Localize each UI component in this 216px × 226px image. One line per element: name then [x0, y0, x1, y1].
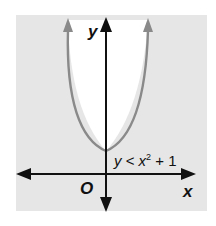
inequality-op: < — [122, 152, 139, 169]
y-axis-label: y — [87, 22, 99, 41]
inequality-graph: y x O y < x2 + 1 — [0, 0, 216, 226]
x-axis-label: x — [182, 182, 194, 201]
inequality-rest: + 1 — [151, 152, 176, 169]
inequality-label: y < x2 + 1 — [113, 152, 177, 169]
origin-label: O — [80, 179, 93, 198]
